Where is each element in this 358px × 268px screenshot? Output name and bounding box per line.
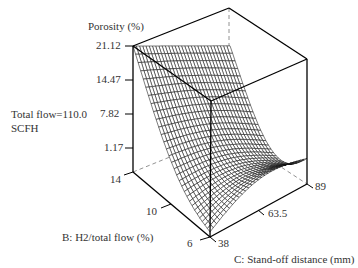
c-axis-label: C: Stand-off distance (mm) bbox=[234, 253, 354, 265]
z-tick-21.12: 21.12 bbox=[96, 39, 121, 51]
c-tick-63.5: 63.5 bbox=[268, 207, 287, 219]
b-axis-label: B: H2/total flow (%) bbox=[62, 231, 153, 243]
z-tick-14.47: 14.47 bbox=[96, 73, 121, 85]
z-tick-7.82: 7.82 bbox=[100, 107, 119, 119]
z-tick-1.17: 1.17 bbox=[104, 141, 123, 153]
b-tick-10: 10 bbox=[146, 205, 157, 217]
surface-mesh bbox=[133, 46, 307, 232]
annotation-scfh: SCFH bbox=[11, 122, 39, 134]
annotation-total-flow: Total flow=110.0 bbox=[11, 108, 87, 120]
b-tick-6: 6 bbox=[187, 237, 193, 249]
surface-plot bbox=[0, 0, 358, 268]
z-axis-label: Porosity (%) bbox=[88, 20, 144, 32]
c-tick-89: 89 bbox=[315, 180, 326, 192]
b-tick-14: 14 bbox=[110, 173, 121, 185]
c-tick-38: 38 bbox=[218, 237, 229, 249]
